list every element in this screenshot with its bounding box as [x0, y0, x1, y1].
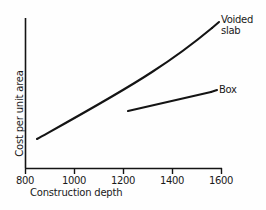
x-tick-label-1400: 1400 [160, 175, 184, 186]
leader-line-voided-slab [212, 22, 219, 28]
x-tick-label-1200: 1200 [111, 175, 135, 186]
chart-figure: 800 1000 1200 1400 1600 Construction dep… [0, 0, 266, 210]
series-line-box [128, 92, 211, 111]
series-label-voided-slab-line1: Voided [221, 14, 253, 25]
series-line-voided-slab [37, 28, 212, 139]
x-tick-label-1600: 1600 [209, 175, 233, 186]
x-tick-label-1000: 1000 [62, 175, 86, 186]
x-axis-title: Construction depth [30, 187, 122, 198]
series-label-voided-slab-line2: slab [221, 25, 253, 36]
series-label-box: Box [219, 84, 237, 95]
series-label-voided-slab: Voided slab [221, 14, 253, 36]
y-axis-title: Cost per unit area [14, 54, 25, 174]
leader-line-box [211, 90, 217, 92]
x-tick-label-800: 800 [16, 175, 34, 186]
